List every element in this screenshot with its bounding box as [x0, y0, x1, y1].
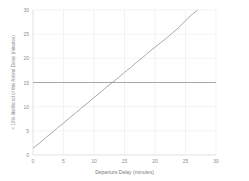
x-tick-label: 30: [213, 158, 219, 164]
y-tick-label: 25: [23, 31, 29, 37]
y-tick-label: 5: [26, 128, 29, 134]
x-axis-title: Departure Delay (minutes): [95, 169, 154, 175]
x-tick-label: 5: [62, 158, 65, 164]
y-tick-label: 20: [23, 55, 29, 61]
x-tick-label: 20: [152, 158, 158, 164]
y-tick-label: 30: [23, 7, 29, 13]
chart-container: 0 5 10 15 20 25 30 0 5 10 15 20 25 30 De…: [0, 0, 249, 181]
y-tick-label: 0: [26, 152, 29, 158]
x-tick-label: 25: [183, 158, 189, 164]
line-chart: 0 5 10 15 20 25 30 0 5 10 15 20 25 30 De…: [0, 0, 249, 181]
x-tick-label: 0: [32, 158, 35, 164]
y-tick-label: 15: [23, 80, 29, 86]
x-tick-label: 15: [122, 158, 128, 164]
x-tick-label: 10: [91, 158, 97, 164]
y-tick-labels: 0 5 10 15 20 25 30: [23, 7, 29, 158]
y-axis-title: < 10% likelihood of this Arrival Delay (…: [11, 35, 16, 130]
y-tick-label: 10: [23, 104, 29, 110]
x-tick-labels: 0 5 10 15 20 25 30: [32, 158, 219, 164]
